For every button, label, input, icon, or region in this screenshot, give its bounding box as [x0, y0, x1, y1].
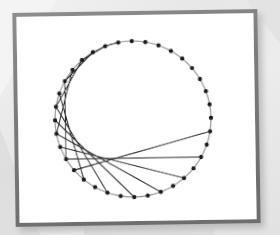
framed-slide [12, 9, 260, 227]
slide-paper [16, 13, 256, 223]
diagram-canvas [0, 0, 280, 235]
backdrop-bottom-band [84, 228, 214, 235]
slide-photo [0, 0, 280, 235]
